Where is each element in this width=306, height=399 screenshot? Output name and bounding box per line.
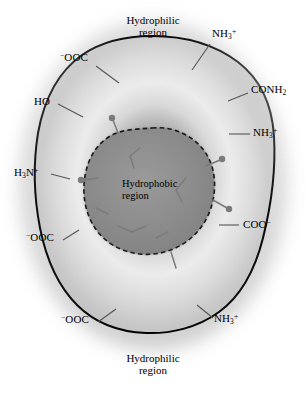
hydrophobic-line2: region bbox=[122, 190, 177, 202]
hydrophilic-top-line1: Hydrophilic bbox=[106, 14, 200, 26]
label-ooc-left: −OOC bbox=[26, 232, 54, 244]
protein-structure-figure: Hydrophilic region Hydrophilic region Hy… bbox=[0, 0, 306, 399]
label-h3n-left: H3N+ bbox=[14, 167, 38, 180]
hydrophilic-top-line2: region bbox=[106, 26, 200, 38]
label-conh2-right: CONH2 bbox=[251, 84, 286, 97]
label-nh3-top-right: NH3+ bbox=[212, 28, 236, 41]
label-ooc-bottom-left: −OOC bbox=[61, 314, 89, 326]
region-label-hydrophilic-top: Hydrophilic region bbox=[106, 14, 200, 39]
label-nh3-bottom-right: NH3+ bbox=[214, 313, 238, 326]
hydrophobic-line1: Hydrophobic bbox=[122, 178, 177, 190]
region-label-hydrophobic: Hydrophobic region bbox=[122, 178, 177, 202]
label-nh3-right: NH3+ bbox=[253, 127, 277, 140]
label-coo-right: COO− bbox=[243, 219, 271, 231]
hydrophilic-bottom-line1: Hydrophilic bbox=[106, 352, 200, 364]
region-label-hydrophilic-bottom: Hydrophilic region bbox=[106, 352, 200, 377]
hydrophilic-bottom-line2: region bbox=[106, 364, 200, 376]
label-ho-left: HO bbox=[34, 96, 50, 108]
label-ooc-top-left: −OOC bbox=[60, 52, 88, 64]
